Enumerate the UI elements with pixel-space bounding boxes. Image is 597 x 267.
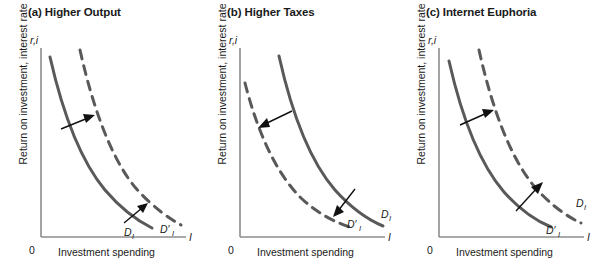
panel-c-y-axis-tip: r,i [428,34,437,46]
panel-a-solid-curve-label: D I [124,226,134,241]
panel-c-plot: D′ I D I r,i I 0 Investment spending [398,0,597,267]
investment-demand-figure: (a) Higher Output Return on investment, … [0,0,597,267]
panel-c-curve-dashed [479,50,581,223]
panel-c-origin-label: 0 [427,244,433,256]
svg-text:I: I [584,203,586,212]
svg-text:I: I [389,214,391,223]
svg-text:D′: D′ [347,218,358,230]
panel-a-x-axis-label: Investment spending [58,246,155,258]
panel-b: (b) Higher Taxes Return on investment, i… [199,0,398,267]
panel-c-x-axis-label: Investment spending [456,246,553,258]
panel-c-dashed-curve-label: D I [576,197,586,212]
panel-b-shift-arrow-upper [258,111,292,128]
panel-a-origin-label: 0 [29,244,35,256]
panel-c: (c) Internet Euphoria Return on investme… [398,0,597,267]
panel-b-dashed-curve-label: D′ I [347,218,361,233]
panel-b-y-axis-tip: r,i [229,34,238,46]
panel-a-curve-solid [50,57,152,228]
panel-c-shift-arrow-lower [516,182,543,211]
panel-b-solid-curve-label: D I [381,208,391,223]
panel-c-curve-solid [449,61,551,227]
svg-text:I: I [558,230,560,239]
panel-a-dashed-curve-label: D′ I [160,223,174,238]
svg-text:I: I [132,232,134,241]
panel-a-y-axis-tip: r,i [30,34,39,46]
panel-b-plot: D I D′ I r,i I 0 Investment spending [199,0,398,267]
panel-b-x-axis-label: Investment spending [257,246,354,258]
panel-c-x-axis-tip: I [587,231,590,243]
svg-text:I: I [359,224,361,233]
svg-text:D: D [124,226,132,238]
panel-a: (a) Higher Output Return on investment, … [0,0,199,267]
panel-b-x-axis-tip: I [388,231,391,243]
svg-text:I: I [172,229,174,238]
panel-a-x-axis-tip: I [189,231,192,243]
panel-a-curve-dashed [80,50,181,225]
svg-text:D: D [381,208,389,220]
panel-a-plot: D I D′ I r,i I 0 Investment spending [0,0,199,267]
svg-text:D: D [576,197,584,209]
panel-b-curve-solid [279,56,383,226]
svg-text:D′: D′ [546,224,557,236]
svg-text:D′: D′ [160,223,171,235]
panel-b-origin-label: 0 [228,244,234,256]
